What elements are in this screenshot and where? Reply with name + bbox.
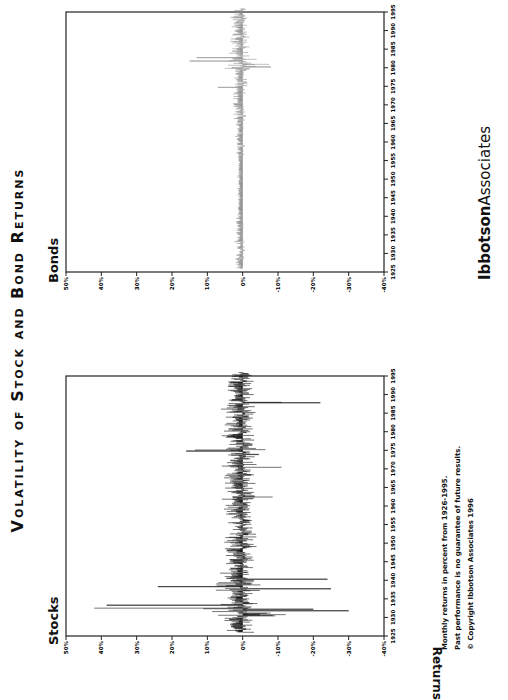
- y-tick-label: -40%: [381, 641, 387, 657]
- y-tick-label: 10%: [204, 277, 210, 291]
- brand-light: Associates: [476, 126, 494, 206]
- y-tick-label: 50%: [63, 277, 69, 291]
- x-tick-label: 1985: [390, 41, 396, 56]
- bonds-chart: 50%40%30%20%10%0%-10%-20%-30%-40%1925193…: [60, 0, 440, 296]
- footnotes: Monthly returns in percent from 1926-199…: [440, 446, 479, 650]
- y-tick-label: 10%: [204, 641, 210, 655]
- y-tick-label: 30%: [134, 277, 140, 291]
- y-tick-label: 50%: [63, 641, 69, 655]
- y-tick-label: -30%: [346, 641, 352, 657]
- footnote-copyright: © Copyright Ibbotson Associates 1996: [466, 446, 477, 650]
- x-tick-label: 1960: [390, 134, 396, 149]
- y-tick-label: -20%: [310, 641, 316, 657]
- y-tick-label: 20%: [169, 277, 175, 291]
- x-tick-label: 1960: [390, 498, 396, 513]
- x-tick-label: 1945: [390, 554, 396, 569]
- y-tick-label: -20%: [310, 277, 316, 293]
- x-tick-label: 1980: [390, 60, 396, 75]
- y-tick-label: -10%: [275, 641, 281, 657]
- chart-page: Volatility of Stock and Bond Returns Sto…: [0, 0, 508, 700]
- y-tick-label: 0%: [240, 641, 246, 651]
- y-tick-label: -40%: [381, 277, 387, 293]
- x-tick-label: 1990: [390, 387, 396, 402]
- x-tick-label: 1970: [390, 97, 396, 112]
- plot-frame: [66, 12, 384, 272]
- x-tick-label: 1925: [390, 628, 396, 643]
- x-tick-label: 1940: [390, 208, 396, 223]
- y-tick-label: 30%: [134, 641, 140, 655]
- x-tick-label: 1930: [390, 246, 396, 261]
- y-tick-label: 0%: [240, 277, 246, 287]
- stocks-panel-label: Stocks: [46, 596, 61, 645]
- x-tick-label: 1945: [390, 190, 396, 205]
- y-tick-label: 40%: [98, 277, 104, 291]
- y-tick-label: -10%: [275, 277, 281, 293]
- brand-logo: IbbotsonAssociates: [476, 126, 494, 280]
- y-tick-label: 20%: [169, 641, 175, 655]
- x-tick-label: 1940: [390, 572, 396, 587]
- x-tick-label: 1985: [390, 405, 396, 420]
- x-tick-label: 1955: [390, 153, 396, 168]
- footnote-disclaimer: Past performance is no guarantee of futu…: [453, 446, 464, 650]
- x-tick-label: 1995: [390, 4, 396, 19]
- plot-frame: [66, 376, 384, 636]
- page-title: Volatility of Stock and Bond Returns: [8, 0, 27, 700]
- bonds-panel-label: Bonds: [46, 238, 61, 283]
- y-tick-label: -30%: [346, 277, 352, 293]
- x-tick-label: 1930: [390, 610, 396, 625]
- x-tick-label: 1965: [390, 480, 396, 495]
- returns-series: [190, 9, 271, 269]
- x-tick-label: 1995: [390, 368, 396, 383]
- x-tick-label: 1935: [390, 591, 396, 606]
- x-tick-label: 1970: [390, 461, 396, 476]
- x-tick-label: 1975: [390, 78, 396, 93]
- x-tick-label: 1965: [390, 116, 396, 131]
- x-tick-label: 1955: [390, 517, 396, 532]
- x-tick-label: 1950: [390, 171, 396, 186]
- x-tick-label: 1950: [390, 535, 396, 550]
- x-tick-label: 1935: [390, 227, 396, 242]
- x-tick-label: 1975: [390, 442, 396, 457]
- footnote-monthly: Monthly returns in percent from 1926-199…: [440, 446, 451, 650]
- y-axis-label: Returns: [430, 647, 444, 700]
- brand-bold: Ibbotson: [476, 206, 494, 280]
- x-tick-label: 1925: [390, 264, 396, 279]
- x-tick-label: 1990: [390, 23, 396, 38]
- stocks-chart: 50%40%30%20%10%0%-10%-20%-30%-40%1925193…: [60, 360, 440, 660]
- x-tick-label: 1980: [390, 424, 396, 439]
- returns-series: [94, 373, 348, 633]
- y-tick-label: 40%: [98, 641, 104, 655]
